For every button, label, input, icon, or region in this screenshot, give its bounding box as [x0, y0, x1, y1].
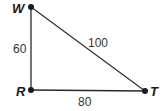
vertex-t-point: [142, 88, 148, 94]
vertex-r-point: [28, 87, 34, 93]
vertex-r-label: R: [16, 84, 26, 99]
vertex-t-label: T: [150, 84, 159, 99]
vertex-w-label: W: [12, 1, 26, 16]
side-wt-label: 100: [88, 36, 108, 50]
vertex-w-point: [28, 4, 34, 10]
side-wr-label: 60: [13, 42, 27, 56]
triangle-diagram: W R T 60 100 80: [0, 0, 164, 111]
side-rt-label: 80: [78, 95, 92, 109]
side-rt: [31, 90, 145, 91]
